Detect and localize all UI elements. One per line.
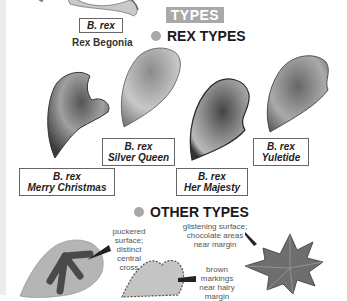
label-yuletide: B. rex Yuletide (253, 138, 309, 166)
pointer-arrow (178, 276, 198, 284)
rex-types-title: REX TYPES (167, 28, 246, 44)
label-cultivar: Silver Queen (107, 152, 170, 163)
note-glistening: glistening surface; chocolate areas near… (175, 222, 255, 249)
label-silver-queen: B. rex Silver Queen (102, 138, 175, 166)
bullet-icon (151, 31, 161, 41)
label-species: B. rex (107, 141, 170, 152)
top-leaf-main-illustration (60, 0, 140, 20)
label-species: B. rex (181, 171, 243, 182)
note-puckered: puckered surface; distinct central cross (108, 227, 150, 272)
label-cultivar: Yuletide (258, 152, 304, 163)
note-brown-markings: brown markings near hairy margin (196, 265, 238, 301)
top-leaf-left-illustration (30, 0, 50, 10)
specimen-label-rex: B. rex (79, 18, 123, 33)
label-species: B. rex (24, 171, 110, 182)
specimen-species: B. rex (87, 20, 115, 31)
leaf-silver-queen-illustration (118, 45, 183, 130)
label-cultivar: Merry Christmas (24, 182, 110, 193)
label-cultivar: Her Majesty (181, 182, 243, 193)
page-edge (0, 0, 6, 295)
rex-types-heading: REX TYPES (151, 28, 246, 44)
leaf-yuletide-illustration (264, 52, 332, 132)
label-merry-christmas: B. rex Merry Christmas (19, 168, 115, 196)
label-species: B. rex (258, 141, 304, 152)
leaf-merry-christmas-illustration (40, 66, 110, 156)
other-types-heading: OTHER TYPES (134, 204, 249, 220)
types-badge: TYPES (166, 7, 224, 23)
label-her-majesty: B. rex Her Majesty (176, 168, 248, 196)
bullet-icon (134, 207, 144, 217)
other-types-title: OTHER TYPES (150, 204, 249, 220)
leaf-her-majesty-illustration (187, 74, 252, 162)
